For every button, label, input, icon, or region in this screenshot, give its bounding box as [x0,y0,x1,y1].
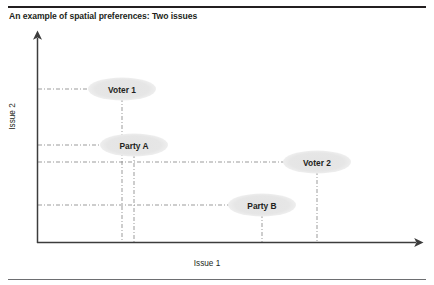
node-label: Party B [247,201,276,211]
x-axis-label: Issue 1 [194,259,220,268]
spatial-preferences-plot: Voter 1 Party A Voter 2 Party B [0,0,434,285]
y-axis-label: Issue 2 [8,87,17,147]
data-point-party-b[interactable]: Party B [228,194,296,217]
node-label: Voter 2 [303,158,331,168]
axes [37,38,416,243]
data-point-voter-1[interactable]: Voter 1 [88,78,156,101]
data-point-party-a[interactable]: Party A [100,134,168,157]
data-points: Voter 1 Party A Voter 2 Party B [88,78,351,217]
guide-lines [38,89,317,243]
node-label: Voter 1 [108,85,136,95]
bottom-rule [8,279,426,280]
figure-container: An example of spatial preferences: Two i… [0,0,434,285]
data-point-voter-2[interactable]: Voter 2 [283,151,351,174]
x-axis-label-wrap: Issue 1 [0,259,434,268]
node-label: Party A [119,141,148,151]
